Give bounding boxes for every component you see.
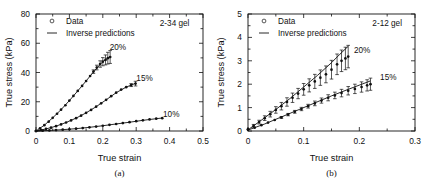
data-point [340, 92, 343, 95]
data-point [360, 86, 363, 89]
y-tick-label: 80 [21, 9, 31, 19]
data-point [291, 96, 294, 99]
data-point [64, 104, 67, 107]
data-point [336, 63, 339, 66]
data-point [130, 84, 133, 87]
data-point [105, 99, 108, 102]
data-point [330, 68, 333, 71]
x-tick-label: 0 [246, 136, 251, 146]
data-point [100, 102, 103, 105]
data-point [280, 105, 283, 108]
data-point [333, 94, 336, 97]
data-point [366, 84, 369, 87]
data-point [260, 124, 263, 127]
legend-label-data: Data [66, 17, 84, 26]
data-point [148, 118, 151, 121]
data-point [68, 128, 71, 131]
figure-container: 00.10.20.30.40.502040608020%15%10%2-34 g… [0, 0, 425, 181]
data-point [308, 84, 311, 87]
data-point [142, 119, 145, 122]
data-point [55, 125, 58, 128]
data-point [95, 125, 98, 128]
gel-type-label: 2-12 gel [372, 19, 402, 28]
data-point [70, 119, 73, 122]
data-point [300, 108, 303, 111]
data-point [313, 80, 316, 83]
y-tick-label: 4 [237, 32, 242, 42]
data-point [85, 112, 88, 115]
y-tick-label: 60 [21, 38, 31, 48]
data-point [61, 128, 64, 131]
x-tick-label: 0.2 [97, 136, 109, 146]
data-point [99, 63, 102, 66]
data-point [302, 88, 305, 91]
y-tick-label: 40 [21, 68, 31, 78]
data-point [287, 113, 290, 116]
data-point [280, 116, 283, 119]
legend-label-data: Data [278, 17, 296, 26]
legend-open-circle-icon [50, 19, 54, 23]
data-point [121, 122, 124, 125]
data-point [101, 124, 104, 127]
data-point [293, 110, 296, 113]
panel-caption: (a) [115, 168, 125, 178]
plot-svg: 00.10.20.30.40.502040608020%15%10%2-34 g… [0, 0, 212, 181]
data-point [274, 109, 277, 112]
data-point [319, 76, 322, 79]
x-tick-label: 0.2 [354, 136, 366, 146]
series-annotation-label: 20% [354, 46, 370, 55]
data-point [320, 99, 323, 102]
data-point [95, 105, 98, 108]
chart-panel-a: 00.10.20.30.40.502040608020%15%10%2-34 g… [0, 0, 212, 181]
data-point [92, 70, 95, 73]
data-point [95, 66, 98, 69]
y-tick-label: 0 [237, 126, 242, 136]
x-tick-label: 0.1 [64, 136, 76, 146]
data-point [50, 126, 53, 129]
plot-svg: 00.10.20.301234520%15%2-12 gelDataInvers… [212, 0, 424, 181]
y-axis-title: True stress (kPa) [216, 37, 226, 107]
x-tick-label: 0 [34, 136, 39, 146]
data-point [55, 129, 58, 132]
data-series-10% [35, 117, 164, 133]
data-point [60, 123, 63, 126]
data-point [106, 57, 109, 60]
data-point [35, 130, 38, 133]
data-point [72, 95, 75, 98]
data-point [60, 108, 63, 111]
data-point [104, 59, 107, 62]
data-series-15% [35, 81, 138, 132]
x-tick-label: 0.5 [197, 136, 209, 146]
data-point [56, 112, 59, 115]
data-point [155, 117, 158, 120]
data-series-20% [247, 45, 350, 130]
data-point [81, 127, 84, 130]
x-tick-label: 0.4 [164, 136, 176, 146]
data-point [75, 127, 78, 130]
y-tick-label: 0 [25, 126, 30, 136]
legend-open-circle-icon [262, 19, 266, 23]
data-point [327, 96, 330, 99]
data-point [76, 90, 79, 93]
data-point [115, 91, 118, 94]
data-point [347, 89, 350, 92]
data-point [110, 95, 113, 98]
data-point [88, 126, 91, 129]
data-point [369, 83, 372, 86]
data-point [307, 105, 310, 108]
legend-label-inverse-predictions: Inverse predictions [66, 29, 135, 38]
data-point [267, 121, 270, 124]
x-axis-title: True strain [310, 153, 354, 163]
data-point [347, 55, 350, 58]
y-tick-label: 1 [237, 103, 242, 113]
data-point [51, 116, 54, 119]
series-annotation-label: 15% [380, 73, 396, 82]
data-point [80, 114, 83, 117]
data-point [101, 60, 104, 63]
data-point [108, 124, 111, 127]
prediction-curve [248, 46, 348, 130]
series-annotation-label: 20% [110, 43, 126, 52]
legend: DataInverse predictions [47, 17, 135, 38]
y-axis-title: True stress (kPa) [4, 37, 14, 107]
legend-label-inverse-predictions: Inverse predictions [278, 29, 347, 38]
